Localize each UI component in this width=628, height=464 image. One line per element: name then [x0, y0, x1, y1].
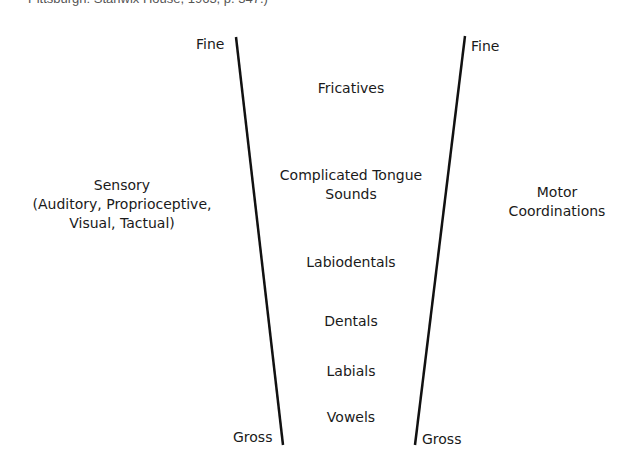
- right-axis-line: [415, 36, 465, 445]
- left-top-label: Fine: [196, 35, 224, 54]
- item-vowels: Vowels: [327, 408, 375, 427]
- item-labials: Labials: [327, 362, 376, 381]
- item-labiodentals: Labiodentals: [306, 253, 395, 272]
- left-axis-line: [236, 37, 283, 445]
- right-top-label: Fine: [471, 37, 499, 56]
- item-dentals: Dentals: [324, 312, 378, 331]
- item-complicated-tongue-sounds: Complicated Tongue Sounds: [280, 166, 422, 204]
- item-fricatives: Fricatives: [318, 79, 385, 98]
- left-bottom-label: Gross: [233, 428, 272, 447]
- motor-coordinations-label: Motor Coordinations: [509, 183, 606, 221]
- sensory-label: Sensory (Auditory, Proprioceptive, Visua…: [33, 176, 212, 233]
- right-bottom-label: Gross: [422, 430, 461, 449]
